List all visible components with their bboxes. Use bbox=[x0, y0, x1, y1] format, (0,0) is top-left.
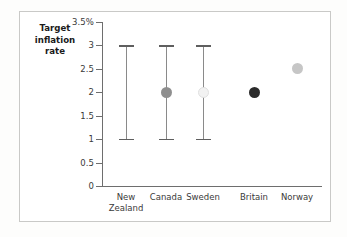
errorbar-cap-top-sweden bbox=[196, 45, 211, 47]
y-tick-2 bbox=[96, 92, 102, 93]
errorbar-new-zealand bbox=[126, 45, 127, 139]
y-tick-0-5 bbox=[96, 163, 102, 164]
errorbar-cap-bottom-sweden bbox=[196, 139, 211, 141]
data-point-norway bbox=[292, 63, 303, 74]
x-axis-line bbox=[102, 186, 322, 187]
y-tick-label-2: 2 bbox=[88, 88, 94, 97]
y-axis-line bbox=[102, 22, 103, 187]
errorbar-cap-bottom-canada bbox=[159, 139, 174, 141]
y-tick-1-5 bbox=[96, 116, 102, 117]
x-label-norway: Norway bbox=[272, 192, 322, 203]
y-tick-1 bbox=[96, 139, 102, 140]
y-tick-label-2-5: 2.5 bbox=[80, 65, 94, 74]
x-label-sweden: Sweden bbox=[178, 192, 228, 203]
errorbar-cap-bottom-new-zealand bbox=[119, 139, 134, 141]
data-point-canada bbox=[161, 87, 172, 98]
y-tick-0 bbox=[96, 186, 102, 187]
errorbar-cap-top-new-zealand bbox=[119, 45, 134, 47]
y-tick-3 bbox=[96, 45, 102, 46]
data-point-sweden bbox=[198, 87, 209, 98]
y-tick-2-5 bbox=[96, 69, 102, 70]
y-tick-label-3-5: 3.5% bbox=[72, 18, 94, 27]
plot-area: Target inflation rate 3.5% 3 2.5 2 1.5 1… bbox=[0, 0, 347, 237]
chart-figure: Target inflation rate 3.5% 3 2.5 2 1.5 1… bbox=[0, 0, 347, 237]
y-tick-label-3: 3 bbox=[88, 41, 94, 50]
errorbar-cap-top-canada bbox=[159, 45, 174, 47]
data-point-britain bbox=[249, 87, 260, 98]
y-axis-title: Target inflation rate bbox=[24, 23, 86, 58]
y-tick-label-1-5: 1.5 bbox=[80, 112, 94, 121]
y-tick-label-1: 1 bbox=[88, 135, 94, 144]
y-tick-label-0: 0 bbox=[88, 182, 94, 191]
y-tick-3-5 bbox=[96, 22, 102, 23]
y-tick-label-0-5: 0.5 bbox=[80, 159, 94, 168]
